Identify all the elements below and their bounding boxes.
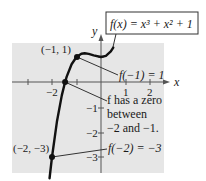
annotation-zero-line3: −2 and −1. <box>107 121 159 135</box>
annotation-zero-line1: f has a zero <box>107 93 162 107</box>
graph-figure: −2 1 2 −1 −2 −3 x y (−1, 1) (−2, −3) f(x… <box>0 0 206 181</box>
annotation-f-neg1: f(−1) = 1 <box>119 68 165 82</box>
function-label: f(x) = x³ + x² + 1 <box>110 17 193 31</box>
y-tick-label-neg3: −3 <box>86 151 98 163</box>
y-axis-arrow-icon <box>99 34 104 41</box>
y-tick-label-neg1: −1 <box>86 102 98 114</box>
annotation-f-neg2: f(−2) = −3 <box>108 141 162 155</box>
point-zero <box>62 79 68 85</box>
x-axis-label: x <box>173 75 180 89</box>
annotation-zero-line2: between <box>107 107 147 121</box>
y-axis-label: y <box>91 24 98 38</box>
point-label-neg2-neg3: (−2, −3) <box>13 142 50 155</box>
y-tick-label-neg2: −2 <box>86 127 98 139</box>
point-label-neg1-1: (−1, 1) <box>41 43 71 56</box>
point-neg1-1 <box>74 54 80 60</box>
x-tick-label-neg2: −2 <box>46 86 58 98</box>
point-neg2-neg3 <box>49 154 55 160</box>
